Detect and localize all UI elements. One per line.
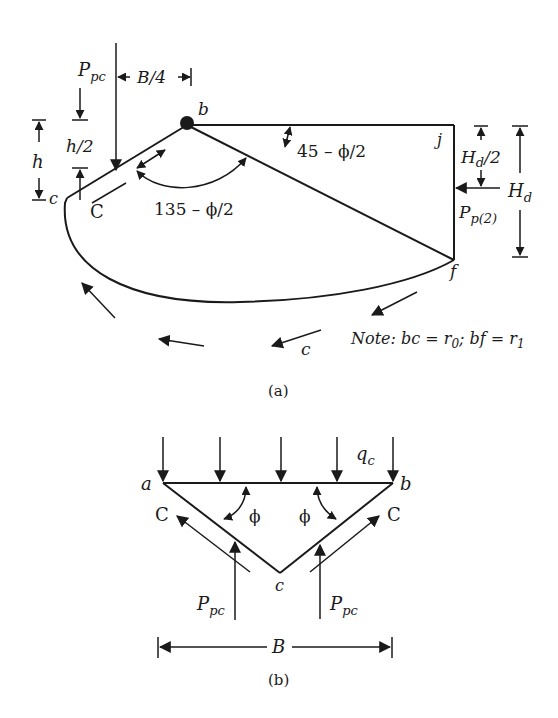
label-angle-135: 135 – ϕ/2 xyxy=(154,199,234,219)
label-point-j: j xyxy=(434,130,442,149)
label-pp2: Pp(2) xyxy=(458,202,497,226)
label-h-half: h/2 xyxy=(66,136,94,156)
label-ppc: Ppc xyxy=(77,59,106,84)
label-cohesion-c: c xyxy=(301,339,311,359)
label-qc: qc xyxy=(356,443,376,468)
label-point-c: c xyxy=(275,576,284,595)
log-spiral-c-f xyxy=(65,198,454,302)
angle-135-arc xyxy=(137,158,246,188)
phi-right-arrow xyxy=(317,487,336,519)
note-radii: Note: bc = r0; bf = r1 xyxy=(350,329,525,351)
label-b-quarter: B/4 xyxy=(136,67,166,87)
cohesion-arrow-2 xyxy=(159,339,204,346)
phi-left-arrow xyxy=(224,487,246,519)
label-point-b: b xyxy=(198,99,209,119)
label-h: h xyxy=(32,151,44,172)
label-point-b: b xyxy=(400,473,412,494)
cohesion-arrow-4 xyxy=(372,292,417,315)
label-cohesion-C: C xyxy=(90,201,104,222)
label-point-a: a xyxy=(141,473,152,494)
figure-a: b j f c Ppc B/4 h h/2 C 135 – ϕ/2 45 – xyxy=(32,43,532,400)
caption-b: (b) xyxy=(268,671,289,689)
cohesion-arrow-1 xyxy=(82,283,115,318)
label-width-B: B xyxy=(271,636,285,657)
label-cohesion-right: C xyxy=(387,504,401,525)
label-point-c: c xyxy=(49,189,58,208)
caption-a: (a) xyxy=(268,382,289,400)
label-point-f: f xyxy=(448,261,459,281)
angle-45-arrow xyxy=(285,127,290,147)
label-ppc-left: Ppc xyxy=(196,593,225,618)
label-hd: Hd xyxy=(507,180,532,205)
label-angle-45: 45 – ϕ/2 xyxy=(297,141,366,161)
point-b-hinge xyxy=(180,116,194,130)
label-cohesion-left: C xyxy=(155,504,169,525)
cohesion-left-arrow xyxy=(177,516,250,572)
cohesion-arrow-3 xyxy=(272,330,321,346)
cohesion-line-bc xyxy=(92,183,126,203)
label-ppc-right: Ppc xyxy=(329,593,358,618)
figure-b: qc a b c ϕ ϕ C C Ppc Ppc B (b) xyxy=(141,437,412,689)
label-phi-left: ϕ xyxy=(249,506,261,526)
label-phi-right: ϕ xyxy=(299,506,311,526)
line-a-c xyxy=(163,483,280,573)
label-hd-half: Hd/2 xyxy=(460,147,501,170)
line-c-b xyxy=(280,483,393,573)
bearing-capacity-diagram: b j f c Ppc B/4 h h/2 C 135 – ϕ/2 45 – xyxy=(0,0,558,718)
